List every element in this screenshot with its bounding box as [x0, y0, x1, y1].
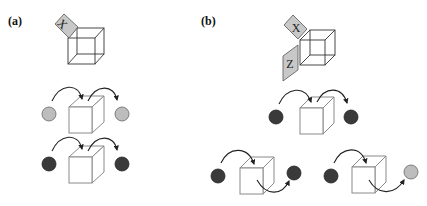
box-cube	[69, 146, 104, 183]
output-ball-dark	[115, 157, 129, 171]
panel-a: (a) X	[8, 14, 129, 183]
output-ball-light	[404, 165, 418, 179]
input-ball-dark	[269, 110, 283, 124]
panel-b-label: (b)	[201, 14, 216, 28]
panel-b-row-3	[324, 150, 418, 193]
panel-a-wireframe-cube	[68, 28, 104, 64]
input-ball-light	[42, 107, 56, 121]
panel-b-wireframe-cube	[300, 30, 335, 65]
panel-b-row-1	[269, 90, 358, 134]
input-ball-dark	[211, 169, 225, 183]
panel-a-label: (a)	[8, 14, 22, 28]
x-tile-letter: X	[292, 21, 301, 35]
output-ball-dark	[344, 110, 358, 124]
panel-b-row-2	[211, 150, 301, 194]
box-cube	[352, 156, 386, 193]
panel-a-row-2	[42, 137, 129, 183]
panel-b-z-tile: Z	[283, 45, 298, 81]
box-cube	[69, 96, 104, 133]
panel-b-x-tile: X	[284, 15, 307, 39]
input-ball-dark	[42, 157, 56, 171]
output-ball-dark	[287, 166, 301, 180]
box-cube	[300, 97, 334, 134]
z-tile-letter: Z	[286, 57, 293, 71]
figure-canvas: (a) X	[0, 0, 427, 206]
box-cube	[240, 157, 274, 194]
panel-b: (b) X Z	[201, 14, 418, 194]
output-ball-light	[115, 107, 129, 121]
panel-a-row-1	[42, 87, 129, 133]
panel-a-x-tile: X	[54, 14, 78, 38]
input-ball-dark	[324, 169, 338, 183]
